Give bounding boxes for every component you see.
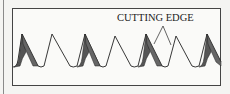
saw-tooth-diagram (0, 0, 230, 94)
tooth-profile (13, 34, 221, 67)
cutting-edge-label: CUTTING EDGE (117, 12, 194, 23)
label-leader-lines (154, 26, 171, 45)
